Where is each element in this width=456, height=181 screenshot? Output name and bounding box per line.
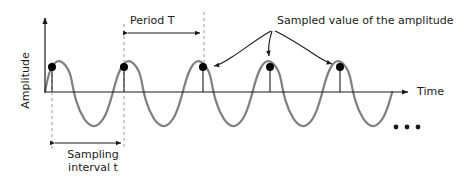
sampling-diagram: Amplitude Time Period T Sampled value of…	[0, 0, 456, 181]
period-symbol: T	[168, 14, 175, 27]
sample-dot	[336, 63, 344, 71]
sample-dot	[199, 63, 207, 71]
sampled-value-label: Sampled value of the amplitude	[277, 14, 454, 27]
y-axis-label: Amplitude	[19, 38, 32, 124]
sample-points	[48, 63, 344, 71]
axes	[45, 18, 408, 92]
sampling-interval-line1: Sampling	[60, 148, 126, 161]
x-axis-label: Time	[417, 85, 444, 98]
sampling-interval-symbol: t	[114, 161, 118, 174]
sampling-interval-word: interval	[68, 161, 110, 174]
sample-dot	[120, 63, 128, 71]
annotation-arrow-right	[275, 31, 332, 64]
annotation-arrow-middle	[269, 31, 272, 56]
sample-stems	[52, 67, 340, 92]
annotation-arrows	[214, 31, 332, 66]
sampling-interval-line2: interval t	[60, 161, 126, 174]
sample-dot	[48, 63, 56, 71]
period-label: Period T	[130, 14, 175, 27]
sample-dot	[266, 63, 274, 71]
annotation-arrow-left	[214, 31, 271, 66]
sampling-interval-label: Sampling interval t	[60, 148, 126, 174]
continuation-ellipsis	[394, 125, 421, 130]
period-text: Period	[130, 14, 164, 27]
